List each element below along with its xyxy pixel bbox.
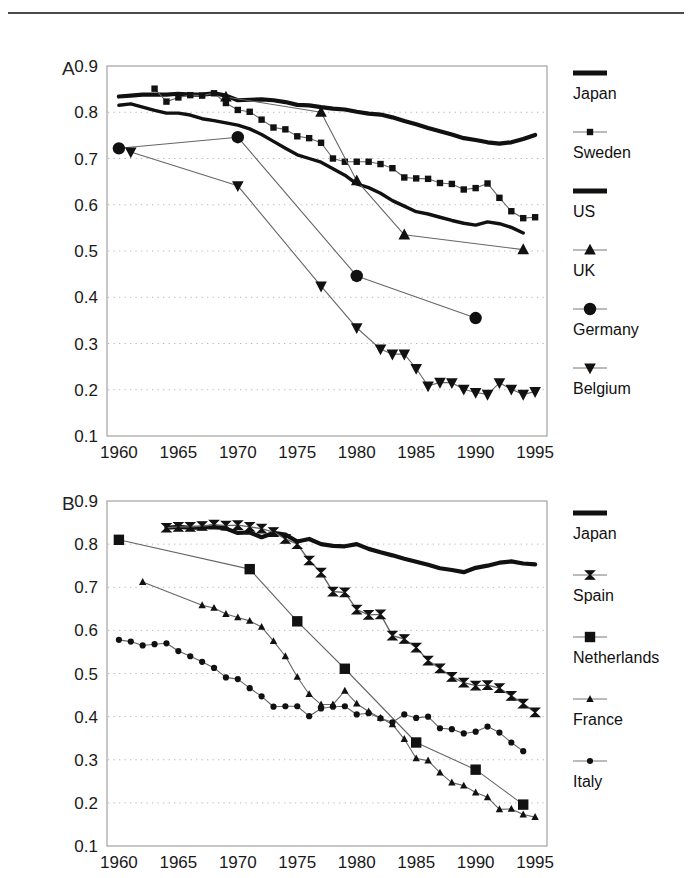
circle-small-marker: [587, 758, 593, 764]
bowtie-marker: [352, 605, 361, 613]
circle-small-marker: [140, 642, 146, 648]
square-marker: [532, 214, 538, 220]
circle-small-marker: [377, 715, 383, 721]
marker-square: [484, 180, 490, 186]
marker-circle-small: [354, 711, 360, 717]
circle-marker: [351, 270, 363, 282]
series-france: [139, 578, 539, 820]
y-axis-tick-label: 0.5: [74, 242, 98, 261]
triangle-up-small-marker: [520, 811, 527, 818]
circle-small-marker: [175, 648, 181, 654]
marker-square-large: [292, 616, 302, 626]
marker-square: [199, 92, 205, 98]
square-marker: [175, 94, 181, 100]
circle-marker: [232, 131, 244, 143]
series-line: [119, 137, 476, 318]
legend-glyph-triangle-down: [573, 363, 607, 374]
marker-circle-small: [520, 748, 526, 754]
marker-circle-small: [366, 710, 372, 716]
marker-circle-small: [473, 729, 479, 735]
triangle-up-marker: [584, 244, 596, 255]
square-marker: [472, 185, 478, 191]
x-axis-tick-label: 1995: [516, 443, 554, 462]
legend-glyph-bowtie: [573, 571, 607, 579]
square-marker: [199, 92, 205, 98]
bowtie-marker: [400, 635, 409, 643]
marker-square: [587, 129, 593, 135]
x-axis-tick-label: 1965: [159, 853, 197, 872]
series-japan: [166, 526, 535, 572]
circle-small-marker: [461, 730, 467, 736]
y-axis-tick-label: 0.5: [74, 665, 98, 684]
circle-small-marker: [235, 676, 241, 682]
marker-circle-small: [199, 659, 205, 665]
chart-panel-a: A 0.10.20.30.40.50.60.70.80.919601965197…: [0, 40, 692, 460]
marker-circle-small: [401, 711, 407, 717]
marker-bowtie: [436, 664, 445, 672]
y-axis-tick-label: 0.9: [74, 492, 98, 511]
marker-triangle-up-small: [139, 578, 146, 585]
bowtie-marker: [436, 664, 445, 672]
circle-small-marker: [520, 748, 526, 754]
triangle-up-small-marker: [139, 578, 146, 585]
marker-triangle-up-small: [520, 811, 527, 818]
marker-square: [401, 174, 407, 180]
marker-circle: [469, 312, 481, 324]
series-line: [226, 97, 523, 250]
marker-circle-small: [163, 640, 169, 646]
legend-label-sweden: Sweden: [573, 144, 631, 161]
marker-triangle-up: [584, 244, 596, 255]
circle-small-marker: [413, 715, 419, 721]
x-axis-tick-label: 1985: [397, 443, 435, 462]
series-line: [119, 93, 535, 143]
marker-triangle-up-small: [412, 754, 419, 761]
square-marker: [401, 174, 407, 180]
square-marker: [235, 107, 241, 113]
marker-bowtie: [519, 699, 528, 707]
marker-square: [354, 159, 360, 165]
marker-square: [425, 176, 431, 182]
triangle-up-small-marker: [258, 623, 265, 630]
circle-small-marker: [199, 659, 205, 665]
circle-small-marker: [306, 713, 312, 719]
x-axis-tick-label: 1980: [338, 853, 376, 872]
marker-triangle-up-small: [258, 623, 265, 630]
square-large-marker: [518, 799, 528, 809]
legend-label-japan: Japan: [573, 525, 617, 542]
triangle-down-marker: [446, 378, 458, 389]
series-sweden: [151, 85, 538, 221]
marker-circle-small: [484, 723, 490, 729]
marker-circle-small: [294, 703, 300, 709]
marker-square-large: [245, 564, 255, 574]
marker-circle: [584, 303, 596, 315]
marker-square: [461, 186, 467, 192]
marker-bowtie: [400, 635, 409, 643]
y-axis-tick-label: 0.2: [74, 794, 98, 813]
square-marker: [258, 116, 264, 122]
square-marker: [211, 90, 217, 96]
series-line: [166, 525, 535, 713]
bowtie-marker: [281, 535, 290, 543]
marker-square: [306, 135, 312, 141]
marker-circle-small: [425, 714, 431, 720]
circle-small-marker: [318, 705, 324, 711]
square-marker: [377, 161, 383, 167]
y-axis-tick-label: 0.4: [74, 288, 98, 307]
triangle-down-marker: [351, 323, 363, 334]
circle-small-marker: [128, 638, 134, 644]
marker-bowtie: [507, 692, 516, 700]
marker-bowtie: [305, 556, 314, 564]
bowtie-marker: [317, 568, 326, 576]
circle-small-marker: [449, 726, 455, 732]
legend-label-spain: Spain: [573, 587, 614, 604]
triangle-up-small-marker: [341, 687, 348, 694]
circle-small-marker: [247, 685, 253, 691]
marker-bowtie: [293, 540, 302, 548]
square-marker: [354, 159, 360, 165]
marker-square-large: [411, 737, 421, 747]
marker-circle-small: [235, 676, 241, 682]
square-marker: [449, 181, 455, 187]
legend-glyph-circle: [573, 303, 607, 315]
marker-circle-small: [258, 693, 264, 699]
circle-small-marker: [389, 719, 395, 725]
